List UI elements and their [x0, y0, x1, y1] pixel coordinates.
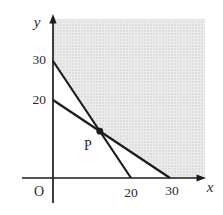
shaded-region: [53, 19, 205, 178]
point-label: P: [84, 138, 92, 153]
origin-label: O: [34, 184, 44, 199]
math-figure: y 30 20 O 20 30 x P: [0, 0, 223, 215]
y-axis-arrowhead-icon: [49, 14, 56, 24]
y-axis-label: y: [32, 14, 41, 30]
y-tick-label-30: 30: [33, 52, 47, 67]
intersection-point: [96, 128, 103, 135]
figure-svg: y 30 20 O 20 30 x P: [0, 0, 223, 215]
x-axis-label: x: [206, 179, 214, 195]
x-tick-label-30: 30: [165, 183, 179, 198]
x-tick-label-20: 20: [124, 185, 138, 200]
y-tick-label-20: 20: [33, 92, 47, 107]
plot-marks: [53, 19, 205, 178]
